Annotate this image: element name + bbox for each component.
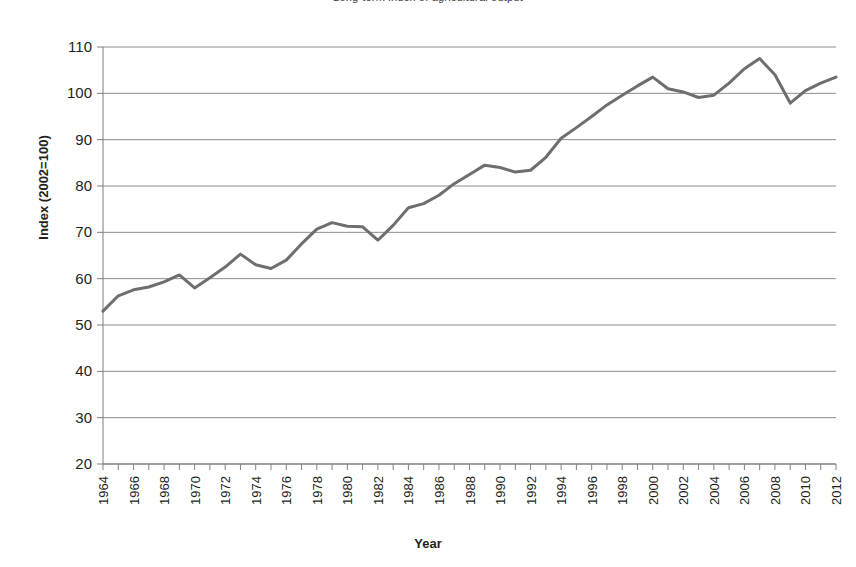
x-tick-label: 1982 [371,476,386,505]
x-tick-label: 1966 [127,476,142,505]
y-tick-label: 60 [75,270,92,287]
x-tick-label: 2004 [707,476,722,505]
y-axis-tick-labels: 2030405060708090100110 [67,38,92,472]
y-tick-label: 70 [75,223,92,240]
x-tick-label: 1994 [554,476,569,505]
x-tick-label: 1974 [249,476,264,505]
y-tick-label: 100 [67,84,92,101]
x-tick-label: 1984 [401,476,416,505]
x-tick-label: 1970 [188,476,203,505]
x-tick-label: 1980 [340,476,355,505]
y-tick-label: 80 [75,177,92,194]
x-tick-label: 2006 [737,476,752,505]
x-tick-label: 1996 [585,476,600,505]
x-tick-label: 1986 [432,476,447,505]
x-tick-label: 2000 [646,476,661,505]
x-tick-label: 2002 [676,476,691,505]
gridlines [97,47,836,464]
y-tick-label: 50 [75,316,92,333]
x-tick-label: 1990 [493,476,508,505]
y-tick-label: 40 [75,362,92,379]
chart-container: Long-term index of agricultural output I… [0,0,856,567]
x-tick-label: 1998 [615,476,630,505]
x-tick-label: 1976 [279,476,294,505]
x-tick-label: 1972 [218,476,233,505]
y-tick-label: 30 [75,409,92,426]
y-tick-label: 20 [75,455,92,472]
x-tick-label: 2010 [798,476,813,505]
x-tick-label: 1988 [463,476,478,505]
line-chart-plot: 2030405060708090100110 19641966196819701… [0,0,856,567]
x-tick-label: 1992 [524,476,539,505]
x-tick-label: 1978 [310,476,325,505]
x-tick-label: 1968 [157,476,172,505]
x-axis-ticks [103,464,836,470]
x-tick-label: 2012 [829,476,844,505]
x-tick-label: 2008 [768,476,783,505]
x-axis-tick-labels: 1964196619681970197219741976197819801982… [96,476,844,505]
y-tick-label: 110 [68,38,92,55]
data-series-line [103,59,836,312]
y-tick-label: 90 [75,131,92,148]
x-tick-label: 1964 [96,476,111,505]
